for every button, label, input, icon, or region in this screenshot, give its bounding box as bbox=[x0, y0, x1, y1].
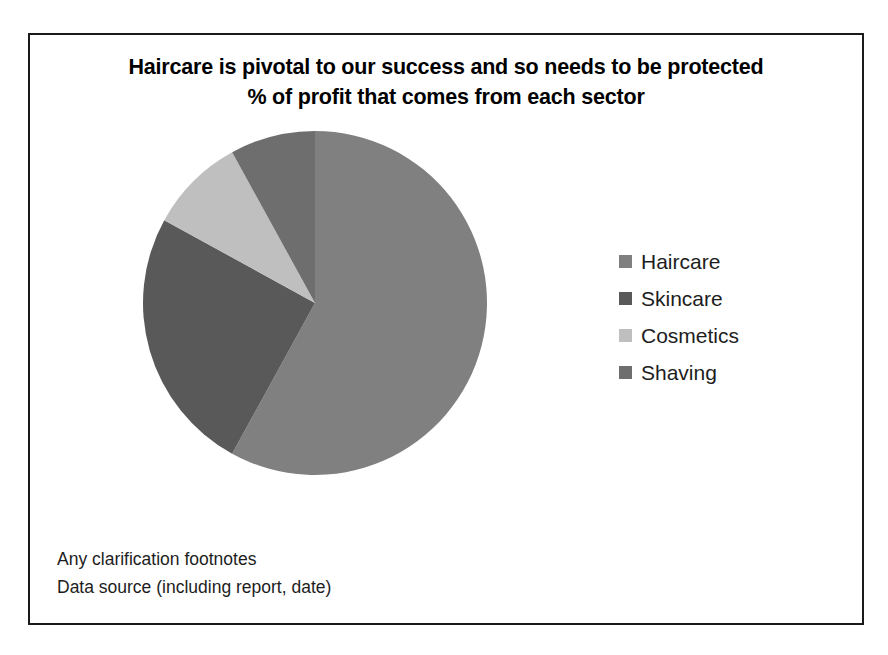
pie-chart bbox=[142, 130, 488, 476]
legend-item-cosmetics[interactable]: Cosmetics bbox=[619, 317, 809, 354]
legend-item-shaving[interactable]: Shaving bbox=[619, 354, 809, 391]
chart-plot-area: Haircare Skincare Cosmetics Shaving bbox=[30, 35, 866, 627]
legend-swatch-skincare bbox=[619, 292, 632, 305]
legend-swatch-shaving bbox=[619, 366, 632, 379]
legend-swatch-cosmetics bbox=[619, 329, 632, 342]
legend-item-haircare[interactable]: Haircare bbox=[619, 243, 809, 280]
slide-frame: Haircare is pivotal to our success and s… bbox=[28, 33, 864, 625]
legend-item-skincare[interactable]: Skincare bbox=[619, 280, 809, 317]
legend-label-haircare: Haircare bbox=[641, 251, 720, 272]
legend-label-skincare: Skincare bbox=[641, 288, 723, 309]
chart-legend: Haircare Skincare Cosmetics Shaving bbox=[619, 243, 809, 391]
pie-chart-svg bbox=[142, 130, 488, 476]
footnote-clarification: Any clarification footnotes bbox=[57, 545, 331, 573]
legend-swatch-haircare bbox=[619, 255, 632, 268]
footnotes-block: Any clarification footnotes Data source … bbox=[57, 545, 331, 601]
legend-label-shaving: Shaving bbox=[641, 362, 717, 383]
footnote-data-source: Data source (including report, date) bbox=[57, 573, 331, 601]
legend-label-cosmetics: Cosmetics bbox=[641, 325, 739, 346]
